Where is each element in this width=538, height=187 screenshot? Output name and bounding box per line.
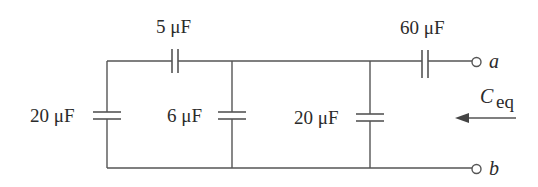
terminal-a: a [472, 50, 499, 72]
c5-label: 60 μF [400, 17, 445, 38]
terminal-b-label: b [489, 157, 499, 179]
arrow-left-icon [455, 113, 469, 123]
c1-label: 20 μF [30, 105, 75, 126]
circuit-diagram: 20 μF 5 μF 6 μF 20 μF 60 μF a b C eq [0, 0, 538, 187]
capacitor-c3: 6 μF [167, 105, 246, 126]
terminal-node-icon [472, 165, 481, 174]
wires [107, 61, 472, 168]
capacitor-c5: 60 μF [400, 17, 445, 78]
terminal-node-icon [472, 58, 481, 67]
capacitor-c2: 5 μF [156, 16, 191, 73]
terminal-a-label: a [489, 50, 499, 72]
ceq-subscript: eq [496, 91, 514, 112]
equivalent-capacitance: C eq [455, 85, 516, 123]
ceq-symbol: C [480, 85, 494, 107]
terminal-b: b [472, 157, 499, 179]
c4-label: 20 μF [294, 107, 339, 128]
c2-label: 5 μF [156, 16, 191, 37]
c3-label: 6 μF [167, 105, 202, 126]
